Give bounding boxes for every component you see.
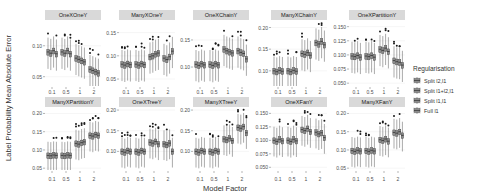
outlier-point [273, 54, 275, 56]
x-tick-label: 0.5 [63, 176, 70, 182]
outlier-point [141, 132, 143, 134]
outlier-point [135, 134, 137, 136]
outlier-point [97, 117, 99, 119]
facet-panel: OneXFanY0.0500.0750.1000.1250.1500.10.51… [255, 97, 327, 182]
y-tick-label: 0.20 [106, 107, 116, 113]
outlier-point [321, 22, 323, 24]
outlier-point [237, 31, 239, 33]
outlier-point [89, 48, 91, 50]
x-tick-label: 0.5 [289, 176, 296, 182]
outlier-point [231, 35, 233, 37]
outlier-point [371, 38, 373, 40]
x-tick-label: 1 [79, 89, 82, 95]
outlier-point [365, 39, 367, 41]
boxplot-facet-chart: Label Probability Mean Absolute Error Mo… [0, 0, 479, 196]
outlier-point [157, 36, 159, 38]
outlier-point [287, 123, 289, 125]
outlier-point [217, 135, 219, 137]
x-tick-label: 2 [241, 176, 244, 182]
x-tick-label: 1 [153, 89, 156, 95]
x-tick-label: 0.1 [49, 89, 56, 95]
outlier-point [209, 133, 211, 135]
facet-panel: OneXChainY0.100.150.10.512 [180, 10, 249, 95]
outlier-point [357, 130, 359, 132]
outlier-point [231, 124, 233, 126]
outlier-point [92, 49, 94, 51]
facet-strip-label: OneXPartitionY [358, 12, 397, 18]
outlier-point [201, 45, 203, 47]
outlier-point [382, 122, 384, 124]
facet-panel: ManyXChainY0.100.150.200.10.512 [258, 10, 327, 95]
outlier-point [307, 111, 309, 113]
outlier-point [226, 124, 228, 126]
outlier-point [373, 40, 375, 42]
facet-panels: OneXOneY0.050.100.10.512ManyXOneY0.050.1… [32, 10, 405, 182]
y-tick-label: 0.050 [333, 80, 346, 86]
outlier-point [237, 110, 239, 112]
x-tick-label: 0.1 [123, 176, 130, 182]
outlier-point [75, 125, 77, 127]
outlier-point [124, 134, 126, 136]
outlier-point [229, 121, 231, 123]
x-tick-label: 0.5 [367, 176, 374, 182]
outlier-point [396, 45, 398, 47]
outlier-point [69, 37, 71, 39]
outlier-point [152, 39, 154, 41]
legend-title: Regularisation [413, 65, 455, 73]
y-tick-label: 0.20 [180, 107, 190, 113]
facet-panel: OneXTreeY0.100.150.200.10.512 [106, 97, 175, 182]
outlier-point [217, 44, 219, 46]
outlier-point [240, 31, 242, 33]
x-tick-label: 2 [319, 176, 322, 182]
x-tick-label: 1 [79, 176, 82, 182]
x-tick-label: 2 [397, 89, 400, 95]
outlier-point [393, 43, 395, 45]
x-axis-label: Model Factor [203, 184, 247, 193]
y-tick-label: 0.075 [255, 151, 268, 157]
outlier-point [61, 137, 63, 139]
x-tick-label: 0.5 [367, 89, 374, 95]
outlier-point [321, 24, 323, 26]
x-tick-label: 0.1 [49, 176, 56, 182]
outlier-point [157, 126, 159, 128]
outlier-point [276, 51, 278, 53]
facet-strip-label: ManyXFanY [362, 99, 393, 105]
x-tick-label: 1 [383, 89, 386, 95]
y-tick-label: 0.10 [258, 68, 268, 74]
outlier-point [385, 28, 387, 30]
facet-panel: ManyXOneY0.050.100.150.10.512 [106, 10, 175, 95]
facet-strip-label: OneXOneY [59, 12, 88, 18]
legend-entry: Full l1 [413, 107, 439, 114]
outlier-point [359, 133, 361, 135]
outlier-point [195, 133, 197, 135]
outlier-point [243, 109, 245, 111]
outlier-point [69, 34, 71, 36]
outlier-point [399, 113, 401, 115]
outlier-point [95, 115, 97, 117]
outlier-point [127, 134, 129, 136]
y-tick-label: 0.15 [180, 128, 190, 134]
outlier-point [393, 115, 395, 117]
outlier-point [143, 47, 145, 49]
x-tick-label: 0.5 [211, 89, 218, 95]
outlier-point [212, 134, 214, 136]
y-tick-label: 0.20 [32, 110, 42, 116]
outlier-point [152, 126, 154, 128]
y-tick-label: 0.075 [333, 66, 346, 72]
y-tick-label: 0.15 [106, 30, 116, 36]
y-tick-label: 0.150 [333, 24, 346, 30]
outlier-point [301, 33, 303, 35]
outlier-point [215, 42, 217, 44]
x-tick-label: 1 [227, 176, 230, 182]
facet-strip-label: ManyXPartitionY [52, 99, 94, 105]
outlier-point [75, 123, 77, 125]
x-tick-label: 1 [305, 176, 308, 182]
facet-strip-label: OneXFanY [285, 99, 313, 105]
outlier-point [379, 31, 381, 33]
legend-entry-label: Split l1,l1 [424, 98, 446, 104]
facet-panel: OneXPartitionY0.0500.0750.1000.1250.1500… [333, 10, 405, 95]
outlier-point [67, 137, 69, 139]
legend: Regularisation Split l2,l1Split l1+l2,l1… [413, 65, 455, 114]
outlier-point [365, 133, 367, 135]
y-tick-label: 0.05 [336, 165, 346, 171]
